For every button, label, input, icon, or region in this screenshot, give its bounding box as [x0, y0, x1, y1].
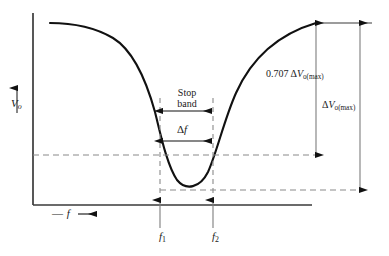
stop-band-label-line2: band — [177, 98, 196, 109]
band-stop-filter-figure: Vo — f Stop band Δf 0.707 ΔVo(max) ΔVo(m… — [0, 0, 389, 256]
delta-f-label-variable: f — [184, 123, 187, 135]
level-0707-label-subscript: o(max) — [303, 73, 324, 81]
f2-tick-label-subscript: 2 — [215, 235, 219, 244]
delta-f-label: Δf — [177, 124, 187, 136]
y-axis-label: Vo — [11, 98, 22, 112]
y-axis-label-symbol: V — [11, 97, 18, 109]
x-axis-label-symbol: f — [67, 207, 71, 219]
x-axis-label: — f — [52, 208, 74, 220]
level-0707-label-prefix: 0.707 Δ — [266, 68, 297, 79]
f1-tick-label-subscript: 1 — [162, 235, 166, 244]
level-max-label: ΔVo(max) — [322, 100, 355, 113]
stop-band-label: Stop band — [163, 88, 211, 109]
level-0707-label: 0.707 ΔVo(max) — [266, 69, 324, 82]
stop-band-label-line1: Stop — [178, 87, 196, 98]
level-max-label-subscript: o(max) — [335, 104, 356, 112]
f1-tick-label: f1 — [159, 231, 166, 245]
y-axis-label-subscript: o — [18, 102, 22, 111]
f2-tick-label: f2 — [212, 231, 219, 245]
